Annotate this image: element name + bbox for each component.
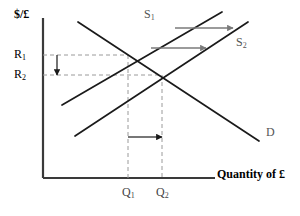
demand-curve-d-label: D xyxy=(266,126,275,138)
supply-curve-s1-label: S1 xyxy=(144,8,155,22)
quantity-tick-q1-base: Q xyxy=(122,185,131,199)
diagram-canvas: $/£ Quantity of £ R1 R2 Q1 Q2 S1 S2 D xyxy=(0,0,300,216)
quantity-tick-q2-subscript: 2 xyxy=(165,191,169,200)
diagram-svg xyxy=(0,0,300,216)
supply-curve-s1-label-subscript: 1 xyxy=(151,13,155,22)
x-axis-label: Quantity of £ xyxy=(217,168,285,180)
y-axis-label: $/£ xyxy=(14,8,29,20)
price-tick-r1: R1 xyxy=(14,48,26,62)
axis-lines xyxy=(43,18,215,178)
supply-curve-s2-label-subscript: 2 xyxy=(243,41,247,50)
dashed-guides xyxy=(43,55,162,178)
supply-curve-s1-label-base: S xyxy=(144,7,151,21)
supply-curve-s2-label: S2 xyxy=(236,36,247,50)
price-tick-r2: R2 xyxy=(14,68,26,82)
shift-arrows xyxy=(57,28,233,137)
quantity-tick-q2-base: Q xyxy=(156,185,165,199)
price-tick-r1-subscript: 1 xyxy=(22,53,26,62)
quantity-tick-q2: Q2 xyxy=(156,186,169,200)
quantity-tick-q1-subscript: 1 xyxy=(131,191,135,200)
supply-curve-s2-label-base: S xyxy=(236,35,243,49)
price-tick-r2-subscript: 2 xyxy=(22,73,26,82)
demand-curve-d xyxy=(78,22,259,141)
quantity-tick-q1: Q1 xyxy=(122,186,135,200)
price-tick-r1-base: R xyxy=(14,47,22,61)
curves xyxy=(62,12,259,141)
price-tick-r2-base: R xyxy=(14,67,22,81)
